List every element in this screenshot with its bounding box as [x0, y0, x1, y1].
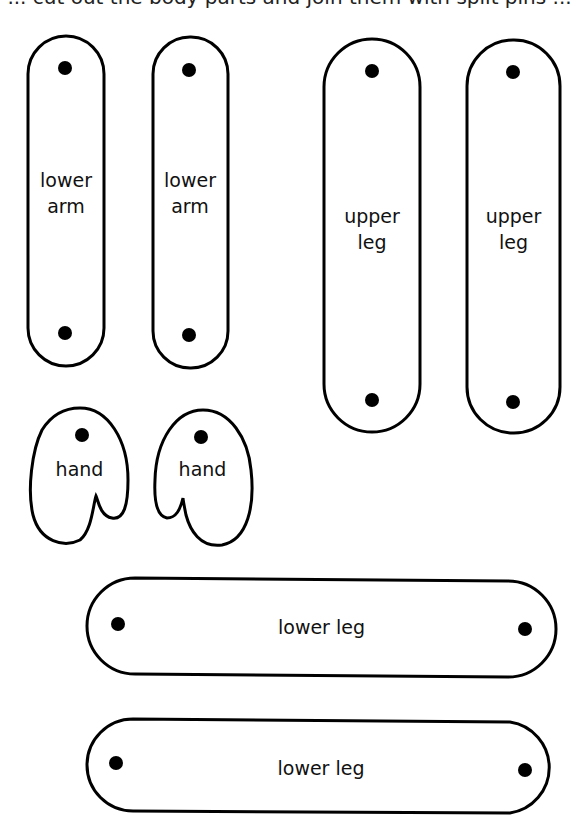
pin-hole-icon — [58, 61, 72, 75]
upper-leg-label-1: upper leg — [324, 203, 420, 255]
lower-leg-label-2: lower leg — [86, 755, 556, 781]
cutout-sheet — [0, 0, 579, 817]
hand-label-1: hand — [31, 456, 128, 482]
pin-hole-icon — [194, 430, 208, 444]
pin-hole-icon — [58, 326, 72, 340]
pin-hole-icon — [75, 428, 89, 442]
pin-hole-icon — [506, 395, 520, 409]
pin-hole-icon — [365, 393, 379, 407]
pin-hole-icon — [365, 64, 379, 78]
pin-hole-icon — [182, 63, 196, 77]
lower-arm-label-2: lower arm — [152, 167, 228, 219]
hand-label-2: hand — [153, 456, 252, 482]
pin-hole-icon — [182, 328, 196, 342]
pin-hole-icon — [506, 65, 520, 79]
lower-leg-label-1: lower leg — [87, 614, 556, 640]
lower-arm-label-1: lower arm — [28, 167, 104, 219]
upper-leg-label-2: upper leg — [467, 203, 560, 255]
